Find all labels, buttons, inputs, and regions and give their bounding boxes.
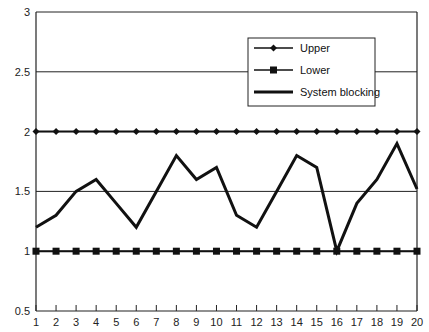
x-tick-label: 7: [153, 316, 159, 328]
x-tick-label: 12: [250, 316, 262, 328]
diamond-marker-icon: [313, 128, 320, 135]
square-marker-icon: [173, 248, 180, 255]
square-marker-icon: [153, 248, 160, 255]
x-tick-label: 13: [271, 316, 283, 328]
square-marker-icon: [373, 248, 380, 255]
line-chart: 0.511.522.531234567891011121314151617181…: [0, 0, 429, 332]
x-tick-label: 4: [93, 316, 99, 328]
square-marker-icon: [414, 248, 421, 255]
diamond-marker-icon: [153, 128, 160, 135]
diamond-marker-icon: [353, 128, 360, 135]
diamond-marker-icon: [253, 128, 260, 135]
diamond-marker-icon: [213, 128, 220, 135]
square-marker-icon: [213, 248, 220, 255]
x-tick-label: 16: [331, 316, 343, 328]
x-tick-label: 2: [53, 316, 59, 328]
square-marker-icon: [53, 248, 60, 255]
diamond-marker-icon: [133, 128, 140, 135]
diamond-marker-icon: [93, 128, 100, 135]
legend-label-system-blocking: System blocking: [300, 86, 380, 98]
square-marker-icon: [353, 248, 360, 255]
x-tick-label: 19: [391, 316, 403, 328]
square-marker-icon: [293, 248, 300, 255]
legend: Upper Lower System blocking: [248, 38, 380, 106]
square-marker-icon: [113, 248, 120, 255]
square-marker-icon: [253, 248, 260, 255]
x-tick-label: 17: [351, 316, 363, 328]
square-marker-icon: [233, 248, 240, 255]
diamond-marker-icon: [113, 128, 120, 135]
x-tick-label: 15: [311, 316, 323, 328]
diamond-marker-icon: [173, 128, 180, 135]
square-marker-icon: [73, 248, 80, 255]
y-tick-label: 2.5: [15, 66, 30, 78]
x-tick-label: 5: [113, 316, 119, 328]
diamond-marker-icon: [393, 128, 400, 135]
square-marker-icon: [193, 248, 200, 255]
diamond-marker-icon: [293, 128, 300, 135]
square-marker-icon: [313, 248, 320, 255]
square-marker-icon: [393, 248, 400, 255]
diamond-marker-icon: [233, 128, 240, 135]
x-tick-label: 8: [173, 316, 179, 328]
square-marker-icon: [133, 248, 140, 255]
y-tick-label: 3: [24, 6, 30, 18]
x-tick-label: 18: [371, 316, 383, 328]
x-tick-label: 14: [291, 316, 303, 328]
diamond-marker-icon: [373, 128, 380, 135]
square-marker-icon: [33, 248, 40, 255]
x-tick-label: 10: [210, 316, 222, 328]
y-tick-label: 1.5: [15, 185, 30, 197]
square-marker-icon: [93, 248, 100, 255]
diamond-marker-icon: [193, 128, 200, 135]
y-tick-label: 2: [24, 126, 30, 138]
x-tick-label: 6: [133, 316, 139, 328]
x-tick-label: 20: [411, 316, 423, 328]
y-tick-label: 1: [24, 245, 30, 257]
diamond-marker-icon: [414, 128, 421, 135]
legend-label-lower: Lower: [300, 64, 330, 76]
diamond-marker-icon: [73, 128, 80, 135]
square-marker-icon: [273, 248, 280, 255]
x-tick-label: 9: [193, 316, 199, 328]
legend-label-upper: Upper: [300, 42, 330, 54]
diamond-marker-icon: [273, 128, 280, 135]
diamond-marker-icon: [333, 128, 340, 135]
x-tick-label: 11: [231, 316, 242, 328]
diamond-marker-icon: [33, 128, 40, 135]
y-tick-label: 0.5: [15, 305, 30, 317]
diamond-marker-icon: [53, 128, 60, 135]
square-marker-icon: [270, 67, 277, 74]
x-tick-label: 3: [73, 316, 79, 328]
series-system-blocking: [36, 144, 417, 252]
x-tick-label: 1: [33, 316, 39, 328]
